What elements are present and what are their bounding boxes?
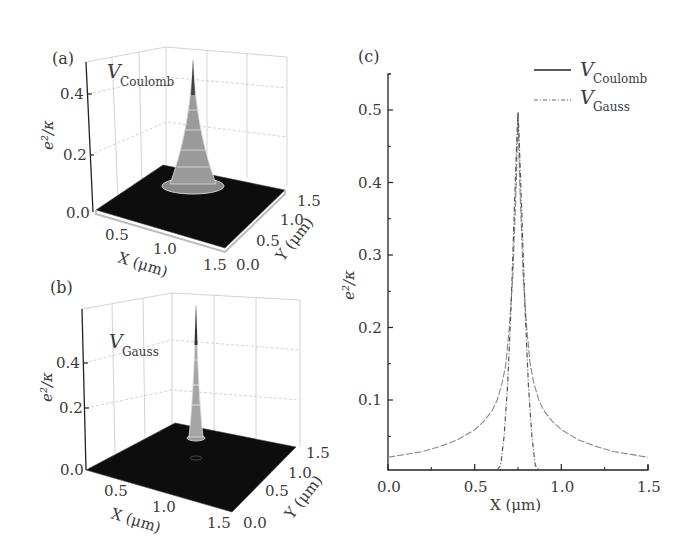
coulomb-curve <box>388 112 648 457</box>
svg-text:1.0: 1.0 <box>153 240 177 258</box>
svg-text:1.5: 1.5 <box>297 192 321 210</box>
x-tick-label: 0.0 <box>377 478 401 496</box>
svg-text:1.0: 1.0 <box>152 498 176 516</box>
panel-b-gauss-peak <box>187 305 205 460</box>
svg-text:0.2: 0.2 <box>59 399 83 417</box>
panel-a-z-label: e²/κ <box>39 120 57 150</box>
svg-text:0.5: 0.5 <box>265 482 289 500</box>
panel-b-z-label: e²/κ <box>38 372 56 402</box>
panel-b: (b) V Gauss 0.4 0.2 0.0 e <box>38 278 330 537</box>
panel-a: (a) <box>39 47 321 281</box>
y-tick-label: 0.4 <box>358 174 382 192</box>
svg-text:0.4: 0.4 <box>60 85 84 103</box>
legend-item-coulomb: V Coulomb <box>534 58 648 86</box>
svg-text:0.0: 0.0 <box>236 256 260 274</box>
y-tick-label: 0.5 <box>358 101 382 119</box>
svg-text:1.5: 1.5 <box>306 444 330 462</box>
legend-item-gauss: V Gauss <box>534 86 630 114</box>
svg-text:0.2: 0.2 <box>63 146 87 164</box>
panel-a-label: (a) <box>52 49 74 68</box>
panel-c-y-label: e²/κ <box>340 270 358 300</box>
y-tick-label: 0.2 <box>358 319 382 337</box>
x-tick-label: 1.5 <box>637 478 661 496</box>
y-tick-label: 0.3 <box>358 246 382 264</box>
svg-text:0.5: 0.5 <box>105 226 129 244</box>
svg-text:0.0: 0.0 <box>66 204 90 222</box>
svg-text:Gauss: Gauss <box>122 345 159 359</box>
svg-text:Coulomb: Coulomb <box>593 72 648 86</box>
svg-text:Gauss: Gauss <box>593 100 630 114</box>
panel-c-x-label: X (μm) <box>490 496 541 514</box>
x-tick-label: 0.5 <box>464 478 488 496</box>
figure: (a) <box>0 0 691 553</box>
panel-b-label: (b) <box>50 278 73 297</box>
svg-text:0.4: 0.4 <box>56 354 80 372</box>
svg-text:0.0: 0.0 <box>243 514 267 532</box>
panel-c: (c) 0.10.20.30.40.5 0.00.51.01.5 X (μm) … <box>340 47 661 514</box>
svg-text:1.5: 1.5 <box>207 514 231 532</box>
gauss-curve <box>497 112 539 470</box>
svg-text:Coulomb: Coulomb <box>120 75 175 89</box>
legend: V Coulomb V Gauss <box>534 58 648 114</box>
panel-b-z-axis <box>82 309 86 470</box>
panel-c-label: (c) <box>358 47 379 66</box>
svg-text:0.0: 0.0 <box>60 461 84 479</box>
panel-c-x-ticks: 0.00.51.01.5 <box>377 464 661 496</box>
svg-text:1.5: 1.5 <box>203 256 227 274</box>
x-tick-label: 1.0 <box>550 478 574 496</box>
svg-text:0.5: 0.5 <box>104 482 128 500</box>
panel-a-z-axis <box>86 62 93 212</box>
y-tick-label: 0.1 <box>358 391 382 409</box>
